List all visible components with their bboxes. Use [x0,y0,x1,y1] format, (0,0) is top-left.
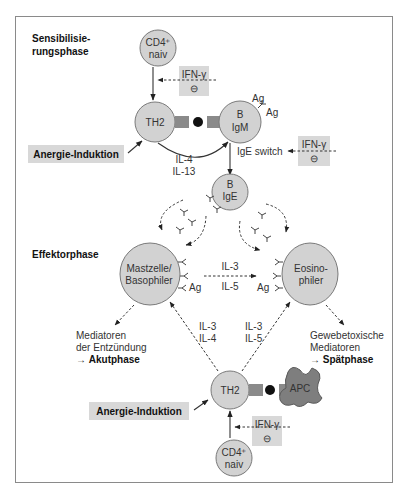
ifn-gamma-inhibitor-top: IFN-γ ⊖ [179,66,209,96]
cd4-naive-cell-top: CD4⁺ naiv [140,30,176,66]
svg-text:naiv: naiv [149,49,167,60]
svg-text:IL-3: IL-3 [245,321,263,332]
il3-il5-label: IL-3 IL-5 [245,321,263,344]
svg-text:→ Akutphase: → Akutphase [76,354,140,365]
mhc-tcr-synapse-top [175,116,221,128]
svg-text:Basophiler: Basophiler [125,275,173,286]
th2-cell-bottom: TH2 [211,371,249,409]
anergy-induction-box-top: Anergie-Induktion [28,145,124,163]
svg-text:IL-13: IL-13 [173,166,196,177]
svg-text:→ Spätphase: → Spätphase [310,354,374,365]
svg-text:CD4⁺: CD4⁺ [145,37,170,48]
svg-text:⊖: ⊖ [310,153,318,164]
effector-phase-label: Effektorphase [32,249,99,260]
svg-text:IL-3: IL-3 [221,261,239,272]
svg-text:Anergie-Induktion: Anergie-Induktion [96,406,182,417]
svg-text:IFN-γ: IFN-γ [182,69,206,80]
svg-text:APC: APC [290,383,311,394]
il3-il4-label: IL-3 IL-4 [199,321,217,344]
antigen-label: Ag [266,107,278,118]
svg-text:⊖: ⊖ [263,433,271,444]
svg-text:TH2: TH2 [221,385,240,396]
eosinophil-cell: Eosino- philer [282,243,338,305]
b-cell-igm: B IgM [219,101,261,143]
svg-text:Sensibilisie-: Sensibilisie- [32,33,90,44]
cd4-naive-cell-bottom: CD4⁺ naiv [216,440,252,476]
antigen-label: Ag [189,282,201,293]
svg-text:Gewebetoxische: Gewebetoxische [310,330,384,341]
svg-text:IFN-γ: IFN-γ [255,419,279,430]
svg-text:IL-5: IL-5 [245,333,263,344]
svg-text:philer: philer [299,275,324,286]
svg-text:IL-4: IL-4 [175,154,193,165]
svg-text:der Entzündung: der Entzündung [76,342,147,353]
b-cell-ige: B IgE [212,174,248,210]
svg-text:Mediatoren: Mediatoren [310,342,360,353]
svg-text:IL-5: IL-5 [221,281,239,292]
ige-switch-label: IgE switch [237,146,283,157]
svg-text:⊖: ⊖ [190,83,198,94]
th2-cell-top: TH2 [135,102,175,142]
ifn-gamma-inhibitor-bottom: IFN-γ ⊖ [252,416,282,446]
svg-text:Anergie-Induktion: Anergie-Induktion [33,149,119,160]
svg-text:IgM: IgM [232,122,249,133]
svg-text:Mediatoren: Mediatoren [76,330,126,341]
svg-text:Eosino-: Eosino- [294,263,328,274]
svg-text:B: B [237,109,244,120]
svg-text:IFN-γ: IFN-γ [302,139,326,150]
svg-text:IL-4: IL-4 [199,333,217,344]
svg-text:rungsphase: rungsphase [32,46,89,57]
svg-text:IgE: IgE [222,191,237,202]
svg-text:IL-3: IL-3 [199,321,217,332]
mast-cell-basophil: Mastzelle/ Basophiler [120,243,180,305]
antigen-label: Ag [252,93,264,104]
il4-il13-label: IL-4 IL-13 [173,154,196,177]
svg-text:B: B [227,179,234,190]
anergy-induction-box-bottom: Anergie-Induktion [89,402,189,420]
antigen-label: Ag [257,282,269,293]
svg-text:CD4⁺: CD4⁺ [221,447,246,458]
svg-text:TH2: TH2 [146,117,165,128]
svg-text:Mastzelle/: Mastzelle/ [126,263,171,274]
allergy-pathway-diagram: Sensibilisie- rungsphase Effektorphase C… [0,0,406,494]
svg-text:naiv: naiv [225,459,243,470]
